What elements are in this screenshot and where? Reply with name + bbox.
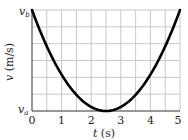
x-tick-1: 1: [58, 114, 65, 127]
y-tick-va: va: [18, 103, 28, 117]
x-axis-label: t (s): [93, 127, 115, 140]
velocity-time-chart: 0 1 2 3 4 5 t (s) v (m/s) vb va: [0, 0, 188, 140]
x-tick-5: 5: [175, 114, 182, 127]
x-tick-0: 0: [29, 114, 36, 127]
x-tick-4: 4: [147, 114, 154, 127]
y-tick-vb: vb: [19, 5, 30, 19]
x-tick-2: 2: [88, 114, 95, 127]
y-axis-label: v (m/s): [3, 43, 16, 81]
x-tick-3: 3: [117, 114, 124, 127]
